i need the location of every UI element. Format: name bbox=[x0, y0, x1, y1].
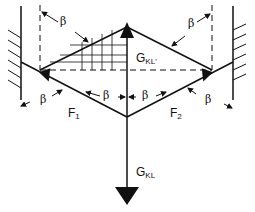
diagram-graphics bbox=[0, 0, 255, 212]
beta-label: β bbox=[205, 94, 211, 106]
beta-label: β bbox=[40, 94, 46, 106]
gkl-prime-label: GKL' bbox=[136, 52, 157, 68]
force-diagram: β β β β β β F1 F2 GKL' GKL bbox=[0, 0, 255, 212]
beta-label: β bbox=[60, 16, 66, 28]
hatch-region bbox=[50, 30, 127, 70]
force-f1-label: F1 bbox=[68, 107, 80, 123]
force-arrowheads bbox=[39, 22, 213, 205]
right-wall bbox=[233, 6, 246, 100]
gkl-label: GKL bbox=[136, 166, 155, 182]
gkl-bottom-arrowhead bbox=[115, 187, 139, 205]
force-f2-label: F2 bbox=[170, 107, 182, 123]
left-wall bbox=[8, 6, 21, 100]
beta-label: β bbox=[188, 18, 194, 30]
rope-lines bbox=[21, 27, 233, 200]
beta-label: β bbox=[142, 90, 148, 102]
beta-label: β bbox=[103, 90, 109, 102]
